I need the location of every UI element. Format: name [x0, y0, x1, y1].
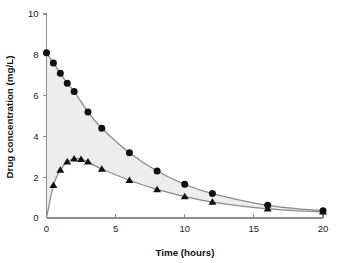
data-point-marker-circle: [43, 49, 50, 56]
y-tick-label: 8: [33, 49, 38, 60]
data-point-marker-circle: [126, 149, 133, 156]
drug-concentration-chart: 0246810 05101520 Time (hours) Drug conce…: [0, 0, 341, 263]
data-point-marker-circle: [57, 70, 64, 77]
x-tick-label: 15: [249, 223, 260, 234]
y-tick-label: 0: [33, 212, 38, 223]
x-axis-title: Time (hours): [155, 247, 214, 258]
data-point-marker-circle: [64, 80, 71, 87]
x-tick-label: 10: [179, 223, 190, 234]
data-point-marker-circle: [71, 88, 78, 95]
data-point-marker-circle: [84, 108, 91, 115]
data-point-marker-circle: [181, 181, 188, 188]
y-tick-label: 2: [33, 172, 38, 183]
data-point-marker-circle: [50, 59, 57, 66]
x-tick-label: 20: [318, 223, 329, 234]
y-tick-group: 0246810: [28, 8, 47, 223]
x-tick-group: 05101520: [44, 214, 328, 235]
x-tick-label: 5: [113, 223, 118, 234]
data-point-marker-circle: [209, 190, 216, 197]
y-tick-label: 4: [33, 131, 38, 142]
data-point-marker-circle: [98, 125, 105, 132]
plot-area: 0246810 05101520 Time (hours) Drug conce…: [0, 0, 341, 263]
x-tick-label: 0: [44, 223, 49, 234]
y-tick-label: 10: [28, 8, 39, 19]
y-axis-title: Drug concentration (mg/L): [4, 55, 15, 178]
data-point-marker-circle: [154, 168, 161, 175]
y-tick-label: 6: [33, 90, 38, 101]
